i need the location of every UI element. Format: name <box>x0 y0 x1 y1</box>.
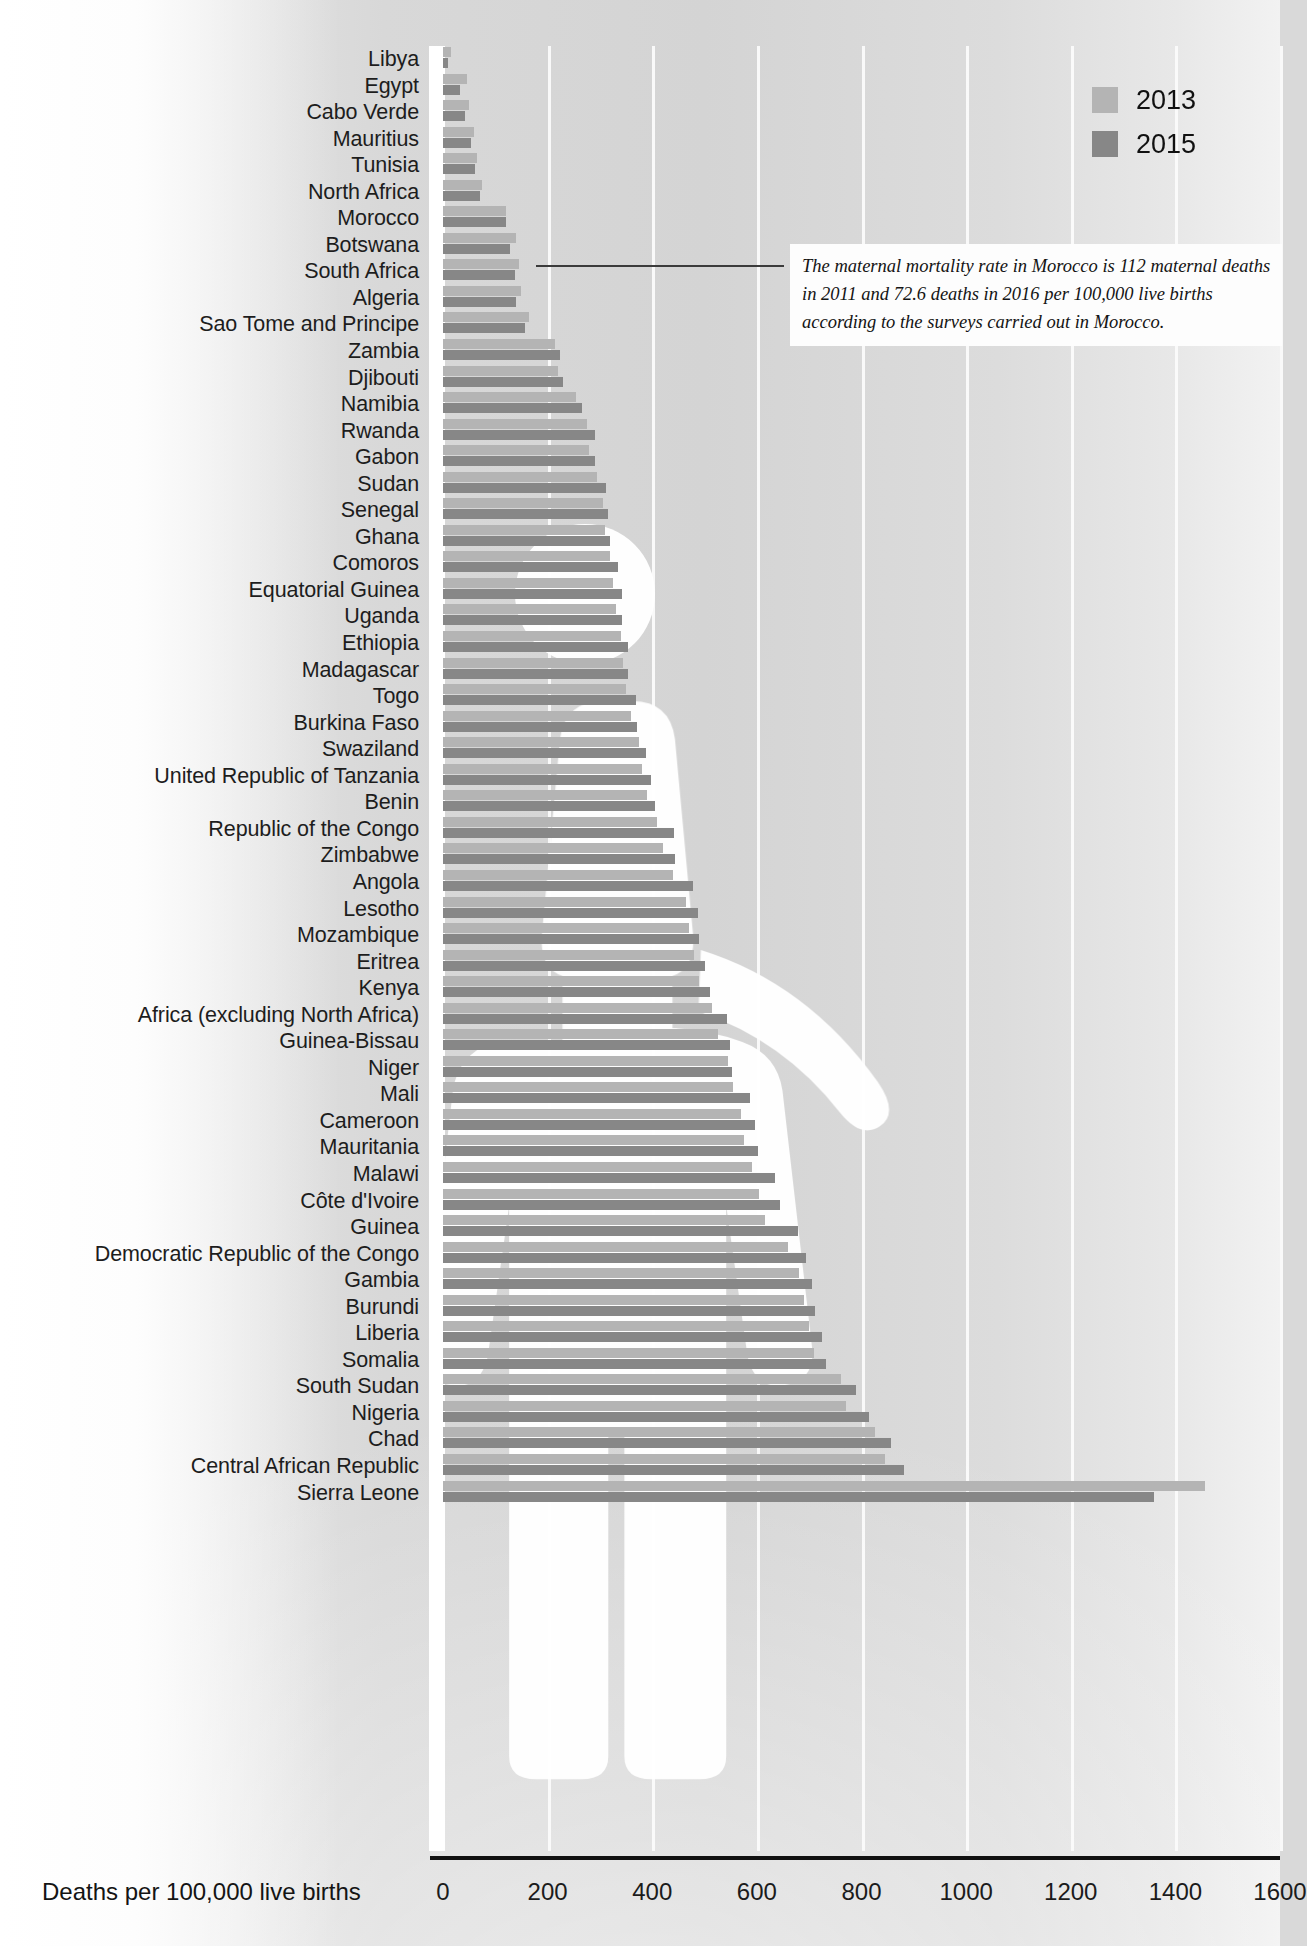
bar-2013 <box>443 790 647 800</box>
category-label: Morocco <box>0 205 425 232</box>
bar-2013 <box>443 259 519 269</box>
category-label: Sudan <box>0 471 425 498</box>
bar-2015 <box>443 377 563 387</box>
bar-2013 <box>443 1321 809 1331</box>
bar-2013 <box>443 1215 765 1225</box>
bar-row <box>443 816 1280 843</box>
bar-2015 <box>443 1173 775 1183</box>
bar-2015 <box>443 1412 869 1422</box>
category-label: Zimbabwe <box>0 842 425 869</box>
bar-2013 <box>443 897 686 907</box>
bar-2015 <box>443 1067 732 1077</box>
bar-2013 <box>443 1189 759 1199</box>
bar-2013 <box>443 658 623 668</box>
bar-row <box>443 497 1280 524</box>
category-label: Kenya <box>0 975 425 1002</box>
category-label: Sao Tome and Principe <box>0 311 425 338</box>
category-label: Mauritius <box>0 126 425 153</box>
bar-2013 <box>443 604 616 614</box>
bar-2013 <box>443 1162 752 1172</box>
bar-row <box>443 46 1280 73</box>
bar-2015 <box>443 350 560 360</box>
bar-2013 <box>443 1454 885 1464</box>
bar-row <box>443 975 1280 1002</box>
bar-2013 <box>443 1082 733 1092</box>
bar-row <box>443 630 1280 657</box>
bar-row <box>443 736 1280 763</box>
category-label: United Republic of Tanzania <box>0 763 425 790</box>
legend-label: 2013 <box>1136 85 1196 116</box>
bar-row <box>443 683 1280 710</box>
bar-row <box>443 1188 1280 1215</box>
category-label: Niger <box>0 1055 425 1082</box>
category-label: Togo <box>0 683 425 710</box>
category-label: Djibouti <box>0 365 425 392</box>
bar-2015 <box>443 801 655 811</box>
category-label: Mozambique <box>0 922 425 949</box>
bar-2015 <box>443 961 705 971</box>
bar-2013 <box>443 1029 718 1039</box>
legend-label: 2015 <box>1136 129 1196 160</box>
bar-2015 <box>443 1146 758 1156</box>
bar-row <box>443 869 1280 896</box>
bar-2015 <box>443 722 637 732</box>
bar-row <box>443 418 1280 445</box>
bar-2015 <box>443 1200 780 1210</box>
category-label: South Africa <box>0 258 425 285</box>
bar-2015 <box>443 695 636 705</box>
bar-2013 <box>443 472 597 482</box>
bar-2015 <box>443 1226 798 1236</box>
category-label: Guinea <box>0 1214 425 1241</box>
x-tick-800: 800 <box>841 1878 881 1906</box>
bar-2013 <box>443 1295 804 1305</box>
bar-2013 <box>443 1427 875 1437</box>
bar-2015 <box>443 1306 815 1316</box>
x-tick-600: 600 <box>737 1878 777 1906</box>
category-label: Swaziland <box>0 736 425 763</box>
bar-row <box>443 1426 1280 1453</box>
bar-2013 <box>443 74 467 84</box>
bar-2015 <box>443 270 515 280</box>
bar-2015 <box>443 854 675 864</box>
bar-row <box>443 365 1280 392</box>
bar-2013 <box>443 817 657 827</box>
x-tick-200: 200 <box>528 1878 568 1906</box>
bar-row <box>443 763 1280 790</box>
bar-2013 <box>443 737 639 747</box>
category-label: Chad <box>0 1426 425 1453</box>
category-label: Côte d'Ivoire <box>0 1188 425 1215</box>
x-tick-0: 0 <box>436 1878 449 1906</box>
x-tick-1400: 1400 <box>1149 1878 1202 1906</box>
bar-2015 <box>443 589 622 599</box>
bar-2015 <box>443 483 606 493</box>
category-label: Egypt <box>0 73 425 100</box>
bar-2013 <box>443 1481 1205 1491</box>
bar-2015 <box>443 987 710 997</box>
bar-2015 <box>443 562 618 572</box>
bar-2015 <box>443 1120 755 1130</box>
bar-2015 <box>443 244 510 254</box>
bar-row <box>443 391 1280 418</box>
bar-row <box>443 1373 1280 1400</box>
category-label: Namibia <box>0 391 425 418</box>
category-label: Sierra Leone <box>0 1480 425 1507</box>
bar-2015 <box>443 297 516 307</box>
bar-2013 <box>443 1109 741 1119</box>
bar-2013 <box>443 1135 744 1145</box>
category-label: Comoros <box>0 550 425 577</box>
bar-row <box>443 789 1280 816</box>
bar-2015 <box>443 828 674 838</box>
bar-row <box>443 1294 1280 1321</box>
bar-2015 <box>443 536 610 546</box>
bar-2015 <box>443 1492 1154 1502</box>
category-label: Uganda <box>0 603 425 630</box>
bar-2013 <box>443 392 576 402</box>
bar-2013 <box>443 339 555 349</box>
bar-2015 <box>443 403 582 413</box>
bar-2013 <box>443 1056 728 1066</box>
category-label: Malawi <box>0 1161 425 1188</box>
legend-swatch <box>1092 131 1118 157</box>
category-label: Liberia <box>0 1320 425 1347</box>
bar-2013 <box>443 100 469 110</box>
